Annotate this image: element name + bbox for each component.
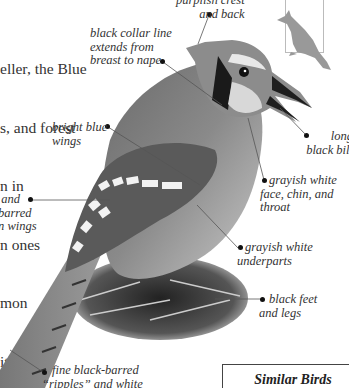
label-bill: long black bill (303, 130, 349, 157)
label-crest: purplish crest and back (176, 0, 245, 21)
similar-birds-title: Similar Birds (223, 372, 349, 388)
label-tail: fine black-barred “ripples” and white (42, 364, 143, 388)
similar-birds-box: Similar Birds (222, 364, 349, 388)
label-wings: bright blue wings (52, 121, 107, 148)
label-underparts: grayish white underparts (237, 241, 313, 268)
label-collar: black collar line extends from breast to… (90, 27, 172, 68)
label-wingbars: and barred n wings (0, 193, 37, 234)
label-feet: black feet and legs (259, 293, 317, 320)
label-face: grayish white face, chin, and throat (260, 174, 337, 215)
